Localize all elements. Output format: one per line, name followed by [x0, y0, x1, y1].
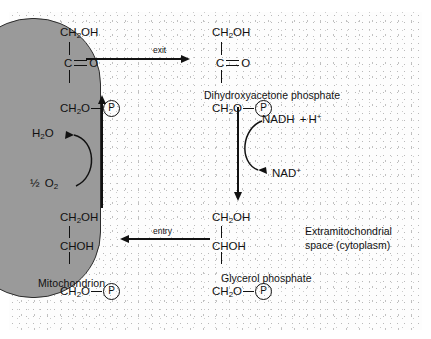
exit-arrow-label: exit [153, 45, 166, 55]
double-bond-icon [226, 60, 239, 66]
bond-c2-c3 [69, 70, 70, 83]
bond-c2-c3 [221, 70, 222, 83]
bond-c1-c2 [69, 226, 70, 238]
diagram-canvas: Mitochondrion CH2OH CO CH2OP exit CH2OH … [0, 0, 431, 339]
phosphate-group-icon: P [255, 283, 272, 300]
oxygen-to-water-curve [62, 130, 104, 192]
molecule-glycerol-phosphate-outside: CH2OH CHOH CH2OP [212, 212, 272, 260]
nadh-label: NADH +H+ [262, 114, 322, 126]
phosphate-bond [243, 108, 254, 109]
bond-c2-c3 [69, 252, 70, 264]
phosphate-bond [91, 291, 102, 292]
nadh-to-nad-curve [236, 118, 276, 176]
glycerol-phosphate-caption: Glycerol phosphate [221, 272, 311, 284]
gp-outside-line3: CH2OP [212, 283, 272, 299]
molecule-dhap-outside: CH2OH CO CH2OP [212, 27, 272, 75]
cytoplasm-space-label: Extramitochondrial space (cytoplasm) [305, 224, 392, 252]
oxygen-label: ½ O2 [30, 178, 58, 190]
bond-c2-c3 [221, 252, 222, 264]
bond-c1-c2 [221, 42, 222, 55]
entry-arrow [128, 238, 210, 240]
exit-arrow [86, 58, 182, 60]
bond-c1-c2 [221, 226, 222, 238]
nad-label: NAD+ [272, 168, 301, 180]
bond-c1-c2 [69, 42, 70, 55]
cytoplasm-label-line1: Extramitochondrial [305, 224, 392, 238]
molecule-glycerol-phosphate-inside: CH2OH CHOH CH2OP [60, 212, 120, 260]
double-bond-icon [74, 60, 87, 66]
entry-arrow-label: entry [153, 226, 172, 236]
phosphate-group-icon: P [103, 283, 120, 300]
cytoplasm-label-line2: space (cytoplasm) [305, 238, 392, 252]
water-label: H2O [32, 128, 54, 140]
gp-inside-line3: CH2OP [60, 283, 120, 299]
phosphate-bond [243, 291, 254, 292]
dhap-caption: Dihydroxyacetone phosphate [204, 89, 340, 101]
dhap-inside-line3: CH2OP [60, 100, 120, 116]
molecule-dhap-inside: CH2OH CO CH2OP [60, 27, 120, 75]
dhap-inside-line1: CH2OH [60, 27, 120, 43]
dhap-outside-line1: CH2OH [212, 27, 272, 43]
